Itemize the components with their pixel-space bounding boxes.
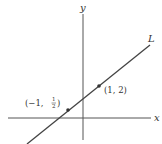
point-1-2 [97,84,101,88]
fraction-numerator: 1 [52,96,56,102]
line-l [27,45,150,144]
fraction-denominator: 2 [52,103,56,109]
point-label-suffix: ) [57,98,60,108]
point-label-prefix: (−1, [25,98,44,108]
point-label-1-2: (1, 2) [104,85,127,95]
point-label-neg1-half: (−1, 1 2 ) [25,96,60,109]
coordinate-diagram: y x L (1, 2) (−1, 1 2 ) [0,0,162,144]
y-axis-label: y [79,2,86,13]
x-axis-label: x [154,112,160,123]
point-neg1-half [66,108,70,112]
line-label: L [147,33,155,44]
